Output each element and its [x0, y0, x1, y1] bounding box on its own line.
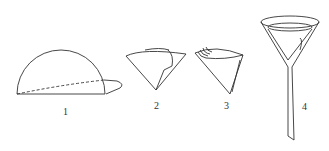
- step-4-label: 4: [302, 101, 307, 112]
- step-3-opened-cone: [195, 47, 243, 94]
- step-2-label: 2: [154, 100, 159, 111]
- step-1-half-circle: [17, 50, 122, 94]
- filter-paper-folding-diagram: [0, 0, 329, 151]
- step-2-quarter-cone: [126, 49, 186, 91]
- step-1-label: 1: [63, 106, 68, 117]
- step-4-funnel: [261, 16, 319, 140]
- step-3-label: 3: [224, 100, 229, 111]
